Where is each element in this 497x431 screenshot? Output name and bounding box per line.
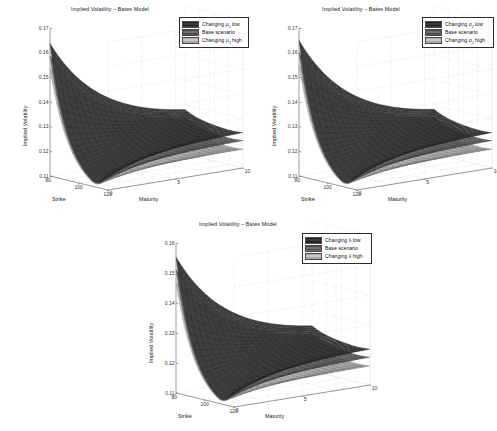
z-axis-tick-label: 5 [426,180,429,185]
chart-legend[interactable]: Changing μJ lowBase scenarioChanging μJ … [179,17,249,48]
legend-item-label: Changing μJ high [202,38,242,43]
z-axis-tick-label: 0 [359,191,362,196]
z-axis-label: Maturity [265,413,284,419]
legend-item[interactable]: Base scenario [305,244,369,252]
x-axis-tick-label: 80 [295,178,301,183]
y-axis-tick-label: 0.14 [33,100,49,105]
y-axis-tick-label: 0.14 [159,301,175,306]
y-axis-tick-label: 0.15 [282,75,298,80]
z-axis-tick-label: 0 [110,191,113,196]
x-axis-tick-label: 100 [75,185,83,190]
legend-item-label: Base scenario [325,246,358,251]
y-axis-tick-label: 0.16 [159,241,175,246]
y-axis-tick-label: 0.12 [282,149,298,154]
legend-color-swatch [182,37,199,44]
z-axis-label: Maturity [388,196,407,202]
y-axis-tick-label: 0.15 [159,271,175,276]
chart-panel-mu-j: Implied Volatility – Bates Model 0.110.1… [0,0,248,215]
legend-label-text: Base scenario [325,245,358,251]
legend-label-text: Changing λ [325,237,351,243]
legend-label-suffix: low [474,21,483,27]
y-axis-tick-label: 0.17 [282,26,298,31]
legend-item[interactable]: Changing μJ low [182,20,246,28]
chart-legend[interactable]: Changing λ lowBase scenarioChanging λ hi… [302,233,372,264]
chart-legend[interactable]: Changing σJ lowBase scenarioChanging σJ … [422,17,494,48]
y-axis-tick-label: 0.16 [33,50,49,55]
legend-color-swatch [425,37,442,44]
legend-label-text: Changing μ [202,21,229,27]
legend-color-swatch [425,29,442,36]
x-axis-tick-label: 100 [324,185,332,190]
y-axis-tick-label: 0.13 [33,124,49,129]
x-axis-label: Strike [52,196,66,202]
y-axis-label: Implied Volatility [148,323,154,363]
legend-label-text: Changing μ [202,37,229,43]
legend-color-swatch [182,29,199,36]
legend-item-label: Changing λ high [325,254,363,259]
legend-label-suffix: high [230,37,241,43]
legend-item[interactable]: Base scenario [182,28,246,36]
legend-color-swatch [182,21,199,28]
y-axis-tick-label: 0.13 [282,124,298,129]
x-axis-tick-label: 80 [46,178,52,183]
y-axis-tick-label: 0.14 [282,100,298,105]
legend-label-suffix: high [474,37,485,43]
legend-item-label: Base scenario [445,30,478,35]
legend-color-swatch [305,245,322,252]
legend-label-suffix: low [351,237,360,243]
y-axis-tick-label: 0.12 [159,361,175,366]
legend-label-text: Changing σ [445,21,472,27]
y-axis-tick-label: 0.16 [282,50,298,55]
legend-item-label: Changing λ low [325,238,360,243]
z-axis-tick-label: 5 [177,180,180,185]
legend-item[interactable]: Changing μJ high [182,37,246,45]
legend-label-suffix: low [230,21,239,27]
y-axis-tick-label: 0.13 [159,331,175,336]
x-axis-label: Strike [301,196,315,202]
y-axis-tick-label: 0.12 [33,149,49,154]
x-axis-tick-label: 80 [172,395,178,400]
z-axis-tick-label: 5 [304,397,307,402]
legend-label-text: Base scenario [202,29,235,35]
volatility-surfaces [50,43,243,184]
legend-label-suffix: high [351,253,362,259]
y-axis-tick-label: 0.17 [33,26,49,31]
legend-item-label: Changing σJ low [445,22,483,27]
y-axis-label: Implied Volatility [271,106,277,146]
legend-label-text: Base scenario [445,29,478,35]
legend-item-label: Changing μJ low [202,22,240,27]
chart-panel-sigma-j: Implied Volatility – Bates Model 0.110.1… [249,0,497,215]
chart-panel-lambda: Implied Volatility – Bates Model 0.110.1… [124,215,374,431]
legend-item[interactable]: Changing σJ high [425,37,491,45]
z-axis-tick-label: 0 [236,408,239,413]
legend-color-swatch [425,21,442,28]
legend-item[interactable]: Changing σJ low [425,20,491,28]
y-axis-label: Implied Volatility [22,106,28,146]
z-axis-tick-label: 10 [372,386,378,391]
legend-color-swatch [305,253,322,260]
legend-item[interactable]: Changing λ high [305,253,369,261]
legend-item[interactable]: Changing λ low [305,236,369,244]
legend-label-text: Changing σ [445,37,472,43]
z-axis-label: Maturity [139,196,158,202]
x-axis-label: Strike [178,413,192,419]
legend-color-swatch [305,237,322,244]
x-axis-tick-label: 100 [201,402,209,407]
legend-label-text: Changing λ [325,253,351,259]
legend-item-label: Base scenario [202,30,235,35]
legend-item[interactable]: Base scenario [425,28,491,36]
legend-item-label: Changing σJ high [445,38,485,43]
y-axis-tick-label: 0.15 [33,75,49,80]
